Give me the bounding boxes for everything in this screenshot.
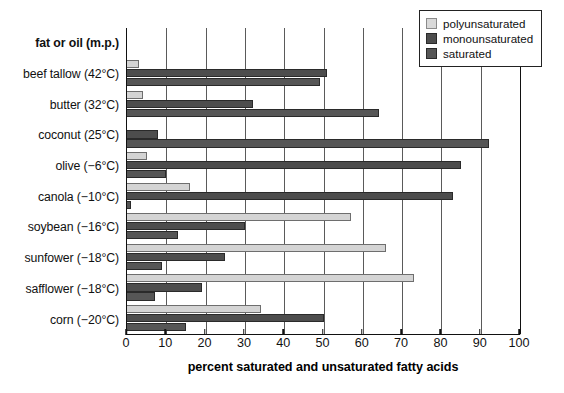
legend-swatch-icon (426, 48, 437, 59)
bar-group (127, 303, 520, 334)
bar-saturated (127, 139, 489, 147)
bar-polyunsaturated (127, 60, 139, 68)
bar-monounsaturated (127, 314, 324, 322)
y-axis-header-label: fat or oil (m.p.) (35, 36, 119, 50)
bar-polyunsaturated (127, 213, 351, 221)
legend-label: polyunsaturated (443, 17, 526, 30)
x-tick-mark (165, 329, 167, 335)
x-tick-mark (204, 329, 206, 335)
x-tick-mark (282, 329, 284, 335)
bar-saturated (127, 231, 178, 239)
y-axis-label-text: corn (−20°C) (50, 313, 119, 327)
y-axis-header: fat or oil (m.p.) (0, 28, 124, 59)
bar-saturated (127, 201, 131, 209)
bar-polyunsaturated (127, 183, 190, 191)
y-axis-label-soybean: soybean (−16°C) (0, 212, 124, 243)
bar-group (127, 89, 520, 120)
x-tick-mark (440, 329, 442, 335)
y-axis-label-coconut: coconut (25°C) (0, 120, 124, 151)
x-tick-label: 70 (394, 336, 408, 350)
legend-label: monounsaturated (443, 32, 533, 45)
y-axis-label-text: sunfower (−18°C) (24, 251, 119, 265)
y-axis-label-text: olive (−6°C) (55, 159, 119, 173)
x-tick-label: 90 (473, 336, 487, 350)
bar-monounsaturated (127, 192, 453, 200)
y-axis-label-beef-tallow: beef tallow (42°C) (0, 59, 124, 90)
legend-label: saturated (443, 47, 491, 60)
y-axis-label-text: soybean (−16°C) (28, 220, 119, 234)
bar-group (127, 212, 520, 243)
bar-saturated (127, 292, 155, 300)
bar-monounsaturated (127, 222, 245, 230)
y-axis-label-safflower: safflower (−18°C) (0, 274, 124, 305)
x-tick-mark (361, 329, 363, 335)
bar-monounsaturated (127, 69, 327, 77)
bar-monounsaturated (127, 283, 202, 291)
y-axis-label-butter: butter (32°C) (0, 89, 124, 120)
y-axis-label-text: butter (32°C) (50, 98, 119, 112)
x-tick-label: 0 (122, 336, 129, 350)
legend-swatch-icon (426, 33, 437, 44)
x-tick-label: 100 (508, 336, 529, 350)
x-tick-label: 20 (198, 336, 212, 350)
bar-polyunsaturated (127, 152, 147, 160)
bar-monounsaturated (127, 253, 225, 261)
y-axis-labels: fat or oil (m.p.) beef tallow (42°C) but… (0, 28, 124, 335)
bar-saturated (127, 262, 162, 270)
legend-item-polyunsaturated[interactable]: polyunsaturated (426, 16, 533, 31)
x-tick-label: 10 (158, 336, 172, 350)
x-tick-mark (479, 329, 481, 335)
gridline (520, 28, 521, 334)
bar-monounsaturated (127, 161, 461, 169)
y-axis-label-text: beef tallow (42°C) (23, 67, 119, 81)
x-axis-ticks: 0102030405060708090100 (126, 336, 520, 356)
bar-monounsaturated (127, 130, 158, 138)
bar-group (127, 242, 520, 273)
legend: polyunsaturated monounsaturated saturate… (419, 10, 542, 67)
plot-area (126, 28, 520, 335)
y-axis-label-canola: canola (−10°C) (0, 181, 124, 212)
bar-polyunsaturated (127, 305, 261, 313)
bar-polyunsaturated (127, 274, 414, 282)
x-tick-label: 50 (315, 336, 329, 350)
x-tick-label: 80 (433, 336, 447, 350)
y-axis-label-text: canola (−10°C) (38, 190, 119, 204)
bar-polyunsaturated (127, 244, 386, 252)
bar-saturated (127, 323, 186, 331)
y-axis-label-corn: corn (−20°C) (0, 304, 124, 335)
x-tick-mark (518, 329, 520, 335)
y-axis-label-sunfower: sunfower (−18°C) (0, 243, 124, 274)
bar-polyunsaturated (127, 91, 143, 99)
x-tick-label: 40 (276, 336, 290, 350)
bar-saturated (127, 109, 379, 117)
bar-group (127, 273, 520, 304)
bar-group (127, 150, 520, 181)
bar-saturated (127, 170, 166, 178)
legend-item-saturated[interactable]: saturated (426, 46, 533, 61)
x-tick-mark (400, 329, 402, 335)
bar-group (127, 181, 520, 212)
bar-monounsaturated (127, 100, 253, 108)
x-tick-mark (243, 329, 245, 335)
bar-group (127, 120, 520, 151)
fatty-acid-bar-chart: fat or oil (m.p.) beef tallow (42°C) but… (0, 0, 564, 393)
x-tick-mark (125, 329, 127, 335)
legend-item-monounsaturated[interactable]: monounsaturated (426, 31, 533, 46)
x-axis-title: percent saturated and unsaturated fatty … (126, 360, 520, 374)
legend-swatch-icon (426, 18, 437, 29)
x-tick-label: 30 (237, 336, 251, 350)
y-axis-label-text: safflower (−18°C) (25, 282, 119, 296)
x-tick-mark (322, 329, 324, 335)
x-tick-label: 60 (355, 336, 369, 350)
bar-saturated (127, 78, 320, 86)
y-axis-label-olive: olive (−6°C) (0, 151, 124, 182)
y-axis-label-text: coconut (25°C) (38, 128, 119, 142)
